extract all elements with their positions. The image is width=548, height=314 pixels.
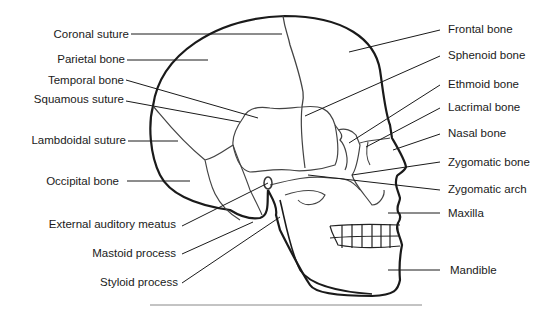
label-ethmoid-bone: Ethmoid bone xyxy=(448,78,519,91)
label-lacrimal-bone: Lacrimal bone xyxy=(448,101,520,114)
label-mandible: Mandible xyxy=(450,264,497,277)
label-occipital-bone: Occipital bone xyxy=(46,175,119,188)
label-mastoid-process: Mastoid process xyxy=(92,247,176,260)
label-coronal-suture: Coronal suture xyxy=(54,28,129,41)
teeth xyxy=(330,224,400,248)
label-external-auditory-meatus: External auditory meatus xyxy=(49,218,176,231)
label-zygomatic-arch: Zygomatic arch xyxy=(448,183,527,196)
label-sphenoid-bone: Sphenoid bone xyxy=(448,49,525,62)
label-lambdoidal-suture: Lambdoidal suture xyxy=(31,134,126,147)
skull-diagram: Coronal suture Parietal bone Temporal bo… xyxy=(0,0,548,314)
zygomatic-arch-line xyxy=(270,177,360,204)
skull-outline xyxy=(150,16,406,296)
sphenoid-outline xyxy=(301,107,347,170)
label-frontal-bone: Frontal bone xyxy=(448,23,513,36)
label-parietal-bone: Parietal bone xyxy=(57,53,125,66)
label-styloid-process: Styloid process xyxy=(100,276,178,289)
label-temporal-bone: Temporal bone xyxy=(48,74,124,87)
label-maxilla: Maxilla xyxy=(448,207,484,220)
coronal-suture-line xyxy=(283,16,303,107)
squamous-suture-line xyxy=(233,145,262,215)
label-squamous-suture: Squamous suture xyxy=(34,93,124,106)
temporal-squama xyxy=(233,106,338,172)
label-zygomatic-bone: Zygomatic bone xyxy=(448,156,530,169)
label-nasal-bone: Nasal bone xyxy=(448,127,506,140)
